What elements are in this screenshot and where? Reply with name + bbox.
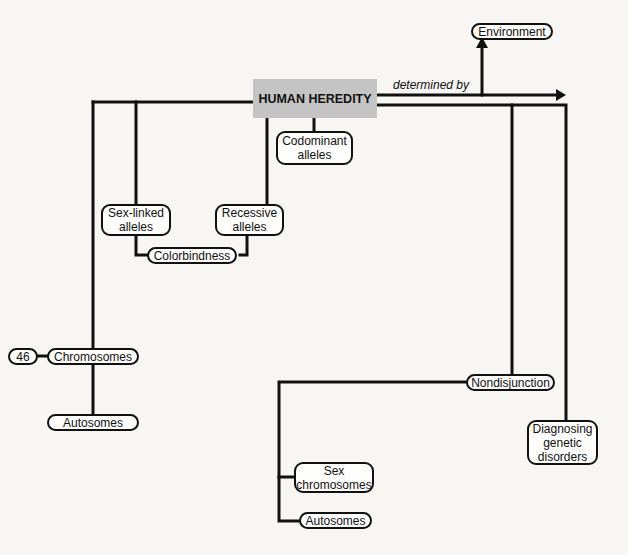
node-environment: Environment (471, 23, 553, 40)
node-autosomes-left: Autosomes (47, 414, 139, 431)
link-label-determined-by: determined by (393, 78, 469, 92)
node-sex-chromosomes: Sex chromosomes (294, 462, 374, 493)
node-autosomes-right: Autosomes (299, 512, 372, 529)
node-diagnosing-genetic-disorders: Diagnosing genetic disorders (527, 420, 598, 465)
node-46: 46 (8, 348, 38, 365)
node-sex-linked-alleles: Sex-linked alleles (101, 204, 171, 236)
main-node-human-heredity: HUMAN HEREDITY (253, 79, 377, 118)
node-colorblindness: Colorbindness (147, 247, 237, 264)
node-codominant-alleles: Codominant alleles (276, 131, 353, 165)
node-chromosomes: Chromosomes (47, 348, 139, 365)
node-nondisjunction: Nondisjunction (466, 374, 555, 391)
node-recessive-alleles: Recessive alleles (215, 204, 284, 236)
